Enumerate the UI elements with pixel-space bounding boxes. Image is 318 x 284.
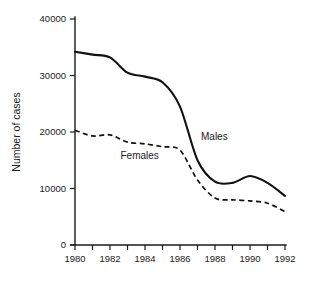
y-axis-ticks: 010000200003000040000 — [40, 13, 75, 250]
y-tick-label: 30000 — [40, 70, 66, 81]
series-line-females — [75, 130, 285, 211]
x-tick-label: 1980 — [64, 253, 85, 264]
x-tick-label: 1988 — [204, 253, 225, 264]
y-tick-label: 40000 — [40, 13, 66, 24]
x-tick-label: 1982 — [99, 253, 120, 264]
y-axis-title: Number of cases — [10, 92, 22, 171]
x-tick-label: 1986 — [169, 253, 190, 264]
y-tick-label: 20000 — [40, 126, 66, 137]
data-series — [75, 52, 285, 212]
series-annotations: MalesFemales — [121, 131, 228, 161]
axes — [71, 17, 286, 245]
x-tick-label: 1992 — [274, 253, 295, 264]
line-chart-plot: 010000200003000040000 198019821984198619… — [0, 0, 318, 284]
x-tick-label: 1990 — [239, 253, 260, 264]
series-line-males — [75, 52, 285, 196]
chart-container: 010000200003000040000 198019821984198619… — [0, 0, 318, 284]
series-label-females: Females — [121, 150, 159, 161]
y-tick-label: 0 — [61, 239, 66, 250]
x-tick-label: 1984 — [134, 253, 155, 264]
y-axis-title-text: Number of cases — [10, 92, 22, 171]
x-axis-ticks: 1980198219841986198819901992 — [64, 245, 295, 264]
series-label-males: Males — [201, 131, 228, 142]
y-tick-label: 10000 — [40, 183, 66, 194]
